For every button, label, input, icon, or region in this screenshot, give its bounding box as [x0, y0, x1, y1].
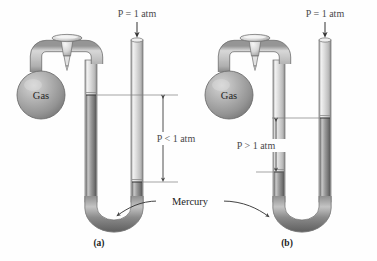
figure-canvas: Gas P = 1 atm P < 1 atm (a): [0, 0, 377, 261]
gas-label-a: Gas: [33, 90, 49, 101]
mercury-label: Mercury: [172, 196, 209, 207]
gas-bulb-a: Gas: [17, 71, 65, 119]
open-arm-mouth-a: [131, 38, 143, 42]
pressure-label-a: P < 1 atm: [157, 133, 196, 144]
atm-label-b: P = 1 atm: [306, 8, 345, 19]
open-arm-mercury-b: [320, 118, 330, 208]
pressure-label-b: P > 1 atm: [237, 140, 276, 151]
manometer-diagram: Gas P = 1 atm P < 1 atm (a): [0, 0, 377, 261]
stopcock-body-a[interactable]: [61, 40, 73, 56]
open-arm-tube-a: [131, 38, 143, 202]
panel-caption-b: (b): [281, 238, 293, 249]
gas-bulb-b: Gas: [205, 71, 253, 119]
gas-label-b: Gas: [221, 90, 237, 101]
stopcock-body-b[interactable]: [249, 40, 261, 56]
atm-label-a: P = 1 atm: [118, 8, 157, 19]
closed-arm-mercury-a: [86, 95, 96, 208]
panel-caption-a: (a): [93, 238, 104, 249]
open-arm-mouth-b: [319, 38, 331, 42]
